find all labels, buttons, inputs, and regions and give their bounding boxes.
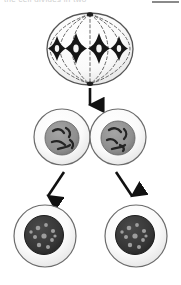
telophase-nucleus-left bbox=[45, 121, 79, 155]
centromere bbox=[55, 45, 59, 52]
telophase-nucleus-right bbox=[101, 121, 135, 155]
arrow-down-left bbox=[48, 172, 64, 196]
stage-separated-cells bbox=[14, 205, 167, 267]
centromere bbox=[117, 45, 121, 52]
centromere bbox=[96, 45, 101, 53]
cell-division-figure: the cell divides in two bbox=[0, 0, 181, 285]
diagram-canvas bbox=[0, 0, 181, 285]
stage-metaphase-cell bbox=[47, 12, 133, 86]
arrow-down-right bbox=[116, 172, 132, 196]
centromere bbox=[73, 45, 78, 53]
stage-telophase-cells bbox=[34, 109, 146, 165]
centrosome-bottom bbox=[87, 82, 93, 86]
centrosome-top bbox=[87, 12, 93, 16]
arrow-down-right-shaft bbox=[116, 172, 132, 196]
arrow-down-left-shaft bbox=[48, 172, 64, 196]
